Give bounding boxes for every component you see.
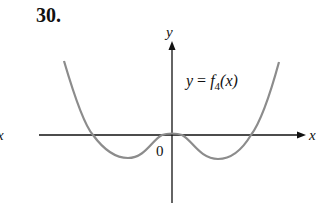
y-axis-arrow-icon (169, 41, 176, 50)
function-label: y=f4(x) (184, 72, 238, 92)
origin-label: 0 (156, 143, 164, 159)
x-axis-arrow-icon (297, 132, 306, 139)
function-graph: y x x 0 y=f4(x) (0, 0, 316, 203)
y-axis-label: y (164, 24, 173, 40)
left-edge-label: x (0, 127, 4, 143)
x-axis-label: x (308, 127, 316, 143)
